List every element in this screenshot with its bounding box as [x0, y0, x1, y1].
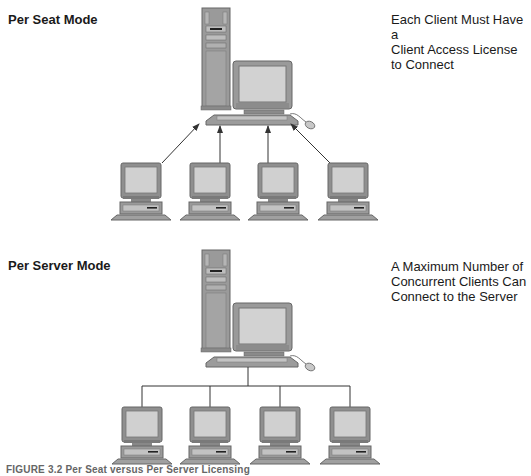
per-server-bus [142, 367, 350, 407]
figure-caption: FIGURE 3.2 Per Seat versus Per Server Li… [6, 464, 250, 475]
per-seat-clients [111, 163, 378, 220]
per-server-clients [112, 407, 380, 464]
per-seat-arrows [162, 124, 330, 163]
per-server-server [201, 250, 316, 372]
per-seat-server [201, 8, 316, 130]
